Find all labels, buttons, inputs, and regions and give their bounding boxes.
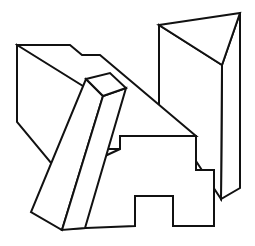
line-drawing-svg: [0, 0, 255, 246]
figure-canvas: [0, 0, 255, 246]
